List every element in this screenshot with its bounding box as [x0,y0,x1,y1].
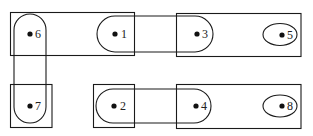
vertex-4: 4 [193,99,207,113]
vertex-label-7: 7 [35,99,41,113]
vertex-label-5: 5 [287,28,293,42]
vertex-2: 2 [111,99,126,113]
vertex-label-2: 2 [120,99,126,113]
vertex-5: 5 [279,28,293,42]
vertex-label-8: 8 [287,99,293,113]
vertex-1: 1 [112,27,127,41]
vertex-8: 8 [279,99,293,113]
vertex-label-3: 3 [202,27,208,41]
vertex-3: 3 [194,27,208,41]
vertex-7: 7 [27,99,41,113]
vertex-6: 6 [27,27,41,41]
hypergraph-diagram: 6 1 3 5 7 2 4 8 [0,0,313,136]
vertex-label-4: 4 [201,99,207,113]
vertex-label-6: 6 [35,27,41,41]
vertex-label-1: 1 [121,27,127,41]
